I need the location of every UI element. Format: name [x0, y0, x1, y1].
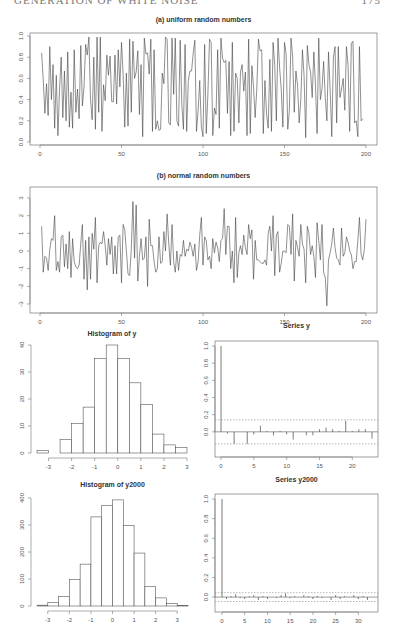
x-tick-label: 0 [116, 464, 120, 470]
chart-acf-y2000: Series y20000510152025300.00.20.40.60.81… [203, 476, 378, 624]
histogram-bar [156, 598, 167, 606]
x-tick-label: 0 [111, 617, 115, 623]
y-tick-label: 40 [19, 341, 25, 348]
histogram-bar [164, 445, 176, 453]
chart-title: (b) normal random numbers [157, 172, 250, 180]
chart-hist-y2000: Histogram of y2000-3-2-10123010020030040… [19, 481, 188, 623]
histogram-bar [152, 434, 164, 453]
histogram-bar [80, 564, 91, 606]
y-tick-label: 0.4 [203, 393, 209, 402]
x-tick-label: 25 [332, 618, 339, 624]
y-tick-label: 0.2 [203, 410, 209, 419]
chart-hist-y: Histogram of y-3-2-10123010203040 [19, 330, 189, 470]
histogram-bar [37, 605, 48, 606]
histogram-bar [69, 580, 80, 606]
y-tick-label: 0.0 [18, 137, 24, 146]
y-tick-label: 0.2 [203, 573, 209, 582]
chart-normal: (b) normal random numbers050100150200-3-… [18, 172, 377, 325]
x-tick-label: 10 [283, 463, 290, 469]
histogram-bar [91, 517, 102, 606]
y-tick-label: 0.6 [203, 376, 209, 385]
plot-frame [215, 341, 378, 457]
x-tick-label: 20 [349, 463, 356, 469]
histogram-bar [118, 359, 130, 454]
chart-title: Histogram of y [87, 330, 136, 338]
x-tick-label: 5 [243, 618, 247, 624]
x-tick-label: 3 [176, 617, 180, 623]
chart-acf-y: Series y051015200.00.20.40.60.81.0 [203, 322, 378, 469]
x-tick-label: 2 [154, 617, 158, 623]
x-tick-label: -3 [46, 464, 52, 470]
x-tick-label: 1 [132, 617, 136, 623]
histogram-bar [95, 359, 107, 454]
histogram-bar [102, 505, 113, 606]
y-tick-label: 0.6 [18, 74, 24, 83]
y-tick-label: -2 [18, 283, 24, 289]
histogram-bar [72, 423, 84, 453]
y-tick-label: 0.8 [203, 358, 209, 367]
y-tick-label: 0.2 [18, 116, 24, 125]
y-tick-label: 0 [19, 604, 25, 608]
x-tick-label: -1 [92, 464, 98, 470]
chart-title: Histogram of y2000 [80, 481, 145, 489]
histogram-bar [134, 553, 145, 606]
x-tick-label: -2 [67, 617, 73, 623]
series-line [42, 37, 363, 138]
x-tick-label: 100 [198, 151, 209, 157]
x-tick-label: 0 [219, 463, 223, 469]
chart-uniform: (a) uniform random numbers0501001502000.… [18, 16, 377, 157]
x-tick-label: -1 [88, 617, 94, 623]
y-tick-label: 30 [19, 368, 25, 375]
figure: (a) uniform random numbers0501001502000.… [0, 0, 395, 637]
x-tick-label: 0 [220, 618, 224, 624]
y-tick-label: 1.0 [203, 494, 209, 503]
histogram-bar [83, 407, 95, 453]
y-tick-label: 0 [19, 451, 25, 455]
y-tick-label: 1.0 [203, 341, 209, 350]
histogram-bar [145, 586, 156, 606]
plot-frame [30, 187, 377, 313]
y-tick-label: 0.6 [203, 533, 209, 542]
x-tick-label: -2 [69, 464, 75, 470]
x-tick-label: 0 [38, 319, 42, 325]
histogram-bar [166, 603, 177, 606]
histogram-bar [106, 345, 118, 453]
x-tick-label: 0 [38, 151, 42, 157]
y-tick-label: 100 [19, 573, 25, 584]
histogram-bar [175, 448, 187, 453]
histogram-bar [59, 597, 70, 606]
y-tick-label: 3 [18, 196, 24, 200]
x-tick-label: 5 [252, 463, 256, 469]
series-line [42, 202, 366, 306]
x-tick-label: 15 [316, 463, 323, 469]
x-tick-label: 2 [162, 464, 166, 470]
y-tick-label: 1 [18, 231, 24, 235]
x-tick-label: 1 [139, 464, 143, 470]
y-tick-label: -1 [18, 265, 24, 271]
histogram-bar [37, 450, 49, 453]
y-tick-label: 0.8 [203, 514, 209, 523]
x-tick-label: 50 [118, 151, 125, 157]
y-tick-label: 300 [19, 519, 25, 530]
x-tick-label: -3 [45, 617, 51, 623]
y-tick-label: 0.0 [203, 427, 209, 436]
histogram-bar [60, 440, 72, 454]
x-tick-label: 200 [361, 151, 372, 157]
x-tick-label: 15 [287, 618, 294, 624]
histogram-bar [141, 404, 153, 453]
y-tick-label: 0.4 [18, 95, 24, 104]
y-tick-label: 20 [19, 395, 25, 402]
y-tick-label: 2 [18, 213, 24, 217]
histogram-bar [177, 605, 188, 606]
chart-title: (a) uniform random numbers [156, 16, 252, 24]
histogram-bar [129, 383, 141, 453]
y-tick-label: 10 [19, 422, 25, 429]
chart-title: Series y [283, 322, 310, 330]
y-tick-label: -3 [18, 301, 24, 307]
x-tick-label: 10 [264, 618, 271, 624]
x-tick-label: 20 [310, 618, 317, 624]
y-tick-label: 0.0 [203, 592, 209, 601]
histogram-bar [113, 500, 124, 606]
x-tick-label: 50 [118, 319, 125, 325]
y-tick-label: 0.4 [203, 553, 209, 562]
